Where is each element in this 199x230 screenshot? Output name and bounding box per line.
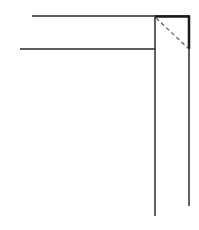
background (0, 0, 199, 230)
miter-joint-diagram (0, 0, 199, 230)
